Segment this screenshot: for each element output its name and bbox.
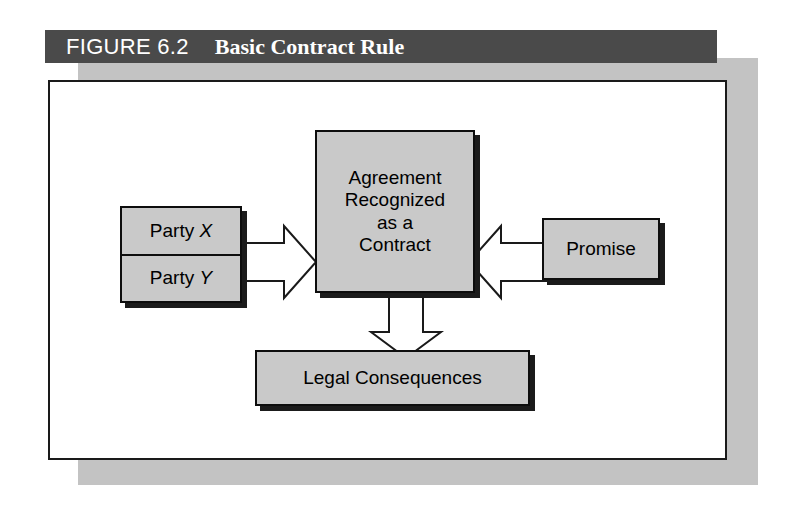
figure-title-bar: FIGURE 6.2 Basic Contract Rule xyxy=(45,30,717,63)
party-y-symbol: Y xyxy=(199,267,212,289)
figure-title-text: Basic Contract Rule xyxy=(215,34,404,60)
arrow-right-parties-to-agreement xyxy=(236,223,318,301)
promise-label: Promise xyxy=(566,238,636,260)
party-y-label: Party xyxy=(150,267,200,289)
arrow-left-promise-to-agreement xyxy=(467,223,549,301)
agreement-line-4: Contract xyxy=(359,234,431,256)
contract-flow-diagram: Party X Party Y Agreement Recognized as … xyxy=(50,82,725,458)
figure-root: FIGURE 6.2 Basic Contract Rule Party X P… xyxy=(0,0,790,514)
party-x-symbol: X xyxy=(199,220,212,242)
party-x-cell: Party X xyxy=(122,208,240,256)
agreement-line-1: Agreement xyxy=(349,167,442,189)
figure-content-frame: Party X Party Y Agreement Recognized as … xyxy=(48,80,727,460)
promise-node: Promise xyxy=(542,218,660,280)
legal-consequences-node: Legal Consequences xyxy=(255,350,530,406)
party-y-cell: Party Y xyxy=(122,256,240,302)
agreement-line-2: Recognized xyxy=(345,189,445,211)
parties-node: Party X Party Y xyxy=(120,206,242,303)
agreement-node: Agreement Recognized as a Contract xyxy=(315,130,475,293)
agreement-line-3: as a xyxy=(377,212,413,234)
figure-number-label: FIGURE 6.2 xyxy=(66,34,189,60)
legal-consequences-label: Legal Consequences xyxy=(303,367,482,389)
party-x-label: Party xyxy=(150,220,200,242)
